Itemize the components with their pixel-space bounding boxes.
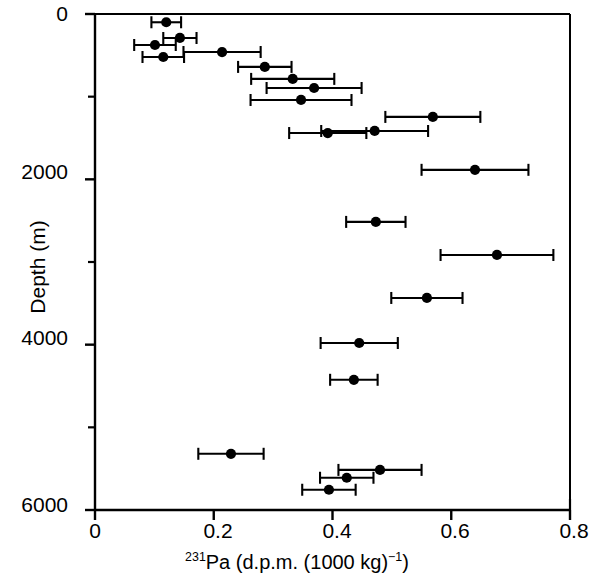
- marker-dot: [492, 250, 502, 260]
- x-tick-label-0.2: 0.2: [183, 520, 253, 541]
- x-tick-label-0.8: 0.8: [539, 520, 594, 541]
- data-point-14: [441, 249, 554, 261]
- marker-dot: [354, 338, 364, 348]
- marker-dot: [288, 74, 298, 84]
- data-point-21: [302, 484, 355, 496]
- data-point-9: [385, 111, 480, 123]
- data-point-11: [289, 127, 366, 139]
- marker-dot: [370, 126, 380, 136]
- data-point-12: [422, 164, 529, 176]
- y-tick-label-0: 0: [0, 3, 68, 24]
- data-point-16: [321, 337, 398, 349]
- data-point-8: [251, 94, 352, 106]
- marker-dot: [324, 485, 334, 495]
- data-point-1: [163, 32, 196, 44]
- data-point-3: [143, 51, 185, 63]
- data-point-10: [321, 125, 428, 137]
- x-tick-label-0.6: 0.6: [420, 520, 490, 541]
- data-point-4: [183, 46, 260, 58]
- data-point-7: [267, 82, 362, 94]
- data-point-17: [330, 374, 378, 386]
- marker-dot: [161, 17, 171, 27]
- x-tick-label-0: 0: [60, 520, 130, 541]
- plot-area: [0, 0, 594, 585]
- x-axis-label: 231Pa (d.p.m. (1000 kg)−1): [0, 551, 594, 574]
- marker-dot: [422, 293, 432, 303]
- marker-dot: [309, 83, 319, 93]
- marker-dot: [217, 47, 227, 57]
- y-tick-label-2000: 2000: [0, 161, 68, 182]
- marker-dot: [226, 449, 236, 459]
- data-series-pa231: [134, 16, 553, 495]
- marker-dot: [375, 465, 385, 475]
- data-point-18: [198, 448, 263, 460]
- data-point-19: [338, 464, 421, 476]
- marker-dot: [150, 40, 160, 50]
- x-axis-label-exponent: −1: [388, 550, 402, 564]
- marker-dot: [296, 95, 306, 105]
- x-axis-label-tail: ): [402, 551, 409, 573]
- marker-dot: [349, 375, 359, 385]
- y-tick-label-6000: 6000: [0, 494, 68, 515]
- data-point-2: [134, 39, 176, 51]
- marker-dot: [371, 217, 381, 227]
- marker-dot: [260, 62, 270, 72]
- y-tick-label-4000: 4000: [0, 327, 68, 348]
- marker-dot: [428, 112, 438, 122]
- data-point-20: [320, 472, 373, 484]
- marker-dot: [158, 52, 168, 62]
- data-point-5: [238, 61, 291, 73]
- data-point-0: [151, 16, 181, 28]
- x-tick-label-0.4: 0.4: [302, 520, 372, 541]
- marker-dot: [470, 165, 480, 175]
- x-axis-label-main: Pa (d.p.m. (1000 kg): [206, 551, 388, 573]
- marker-dot: [323, 128, 333, 138]
- data-point-15: [391, 292, 462, 304]
- data-point-13: [346, 216, 405, 228]
- data-point-6: [251, 73, 334, 85]
- chart-figure: Depth (m) 231Pa (d.p.m. (1000 kg)−1) 0 2…: [0, 0, 594, 585]
- tick-marks: [85, 14, 570, 520]
- x-axis-label-isotope-mass: 231: [185, 550, 206, 564]
- marker-dot: [342, 473, 352, 483]
